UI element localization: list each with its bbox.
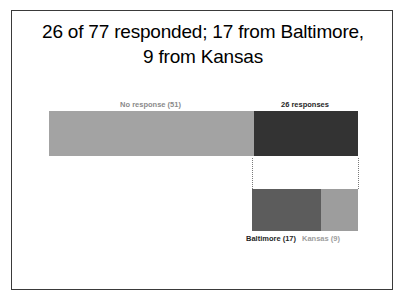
main-stacked-bar (49, 111, 358, 156)
slide-frame: 26 of 77 responded; 17 from Baltimore, 9… (11, 10, 393, 290)
connector-line-left (252, 158, 253, 189)
bar-segment-kansas (321, 189, 358, 231)
slide-content: 26 of 77 responded; 17 from Baltimore, 9… (12, 11, 392, 289)
detail-stacked-bar (252, 189, 358, 231)
detail-bar-kansas-label: Kansas (9) (302, 234, 340, 243)
detail-bar-legend: Baltimore (17)Kansas (9) (246, 234, 376, 243)
main-bar-no-response-label: No response (51) (49, 100, 252, 109)
bar-segment-no-response (49, 111, 254, 156)
stacked-bar-chart: No response (51) 26 responses Baltimore … (12, 11, 392, 289)
bar-segment-baltimore (252, 189, 321, 231)
detail-bar-baltimore-label: Baltimore (17) (246, 234, 296, 243)
connector-line-right (358, 158, 359, 189)
bar-segment-responses (254, 111, 358, 156)
main-bar-responses-label: 26 responses (252, 100, 358, 109)
